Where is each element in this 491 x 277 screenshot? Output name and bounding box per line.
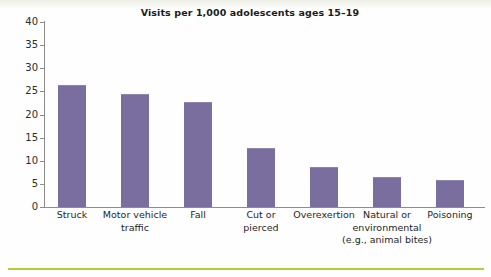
bar (58, 85, 86, 207)
y-tick-mark (40, 184, 44, 185)
y-tick-label: 35 (14, 39, 38, 50)
y-tick-mark (40, 138, 44, 139)
y-tick-mark (40, 161, 44, 162)
y-tick-label: 20 (14, 109, 38, 120)
y-tick-label: 15 (14, 132, 38, 143)
y-tick-label: 30 (14, 62, 38, 73)
bar (373, 177, 401, 207)
bar (310, 167, 338, 207)
y-tick-label: 5 (14, 178, 38, 189)
y-tick-mark (40, 207, 44, 208)
chart-title: Visits per 1,000 adolescents ages 15–19 (40, 7, 460, 18)
bar (247, 148, 275, 207)
x-axis-label: Poisoning (404, 209, 491, 222)
bar (121, 94, 149, 207)
y-tick-label: 40 (14, 16, 38, 27)
y-tick-mark (40, 91, 44, 92)
chart-figure: Visits per 1,000 adolescents ages 15–19 … (0, 0, 491, 277)
x-axis-category-labels: StruckMotor vehicle trafficFallCut or pi… (44, 209, 485, 271)
bottom-decorative-rule (8, 268, 484, 270)
bar (184, 102, 212, 207)
plot-area: 0510152025303540 (44, 22, 484, 207)
y-tick-mark (40, 115, 44, 116)
bar (436, 180, 464, 207)
y-tick-mark (40, 68, 44, 69)
y-tick-label: 25 (14, 85, 38, 96)
x-axis-line (44, 207, 485, 208)
y-tick-mark (40, 22, 44, 23)
y-tick-mark (40, 45, 44, 46)
y-tick-label: 10 (14, 155, 38, 166)
